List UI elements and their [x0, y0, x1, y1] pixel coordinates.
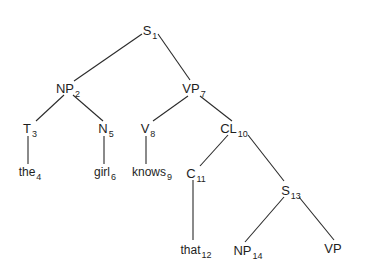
- node-label: the: [19, 165, 36, 179]
- tree-node: V8: [141, 122, 156, 135]
- tree-node: NP14: [233, 244, 262, 257]
- tree-edge: [248, 135, 284, 181]
- tree-node: CL10: [220, 122, 248, 135]
- node-label: S: [281, 183, 290, 198]
- node-index: 4: [36, 172, 41, 182]
- tree-node: VP7: [182, 82, 205, 95]
- node-index: 1: [152, 31, 157, 41]
- node-label: VP: [324, 241, 341, 256]
- node-index: 8: [150, 129, 155, 139]
- tree-leaf-word: that12: [180, 244, 211, 256]
- node-label: girl: [94, 165, 110, 179]
- node-index: 11: [197, 174, 206, 184]
- tree-node: S13: [281, 184, 301, 197]
- tree-node: T3: [23, 122, 37, 135]
- node-label: CL: [220, 121, 237, 136]
- node-label: N: [98, 121, 107, 136]
- tree-node: NP2: [56, 82, 80, 95]
- node-index: 5: [109, 129, 114, 139]
- node-label: NP: [233, 243, 251, 258]
- tree-edge: [153, 96, 188, 121]
- node-label: knows: [132, 165, 166, 179]
- tree-edge: [245, 197, 284, 242]
- node-index: 10: [238, 129, 248, 139]
- node-label: T: [23, 121, 31, 136]
- node-index: 2: [75, 89, 80, 99]
- node-index: 6: [111, 172, 116, 182]
- tree-node: C11: [186, 167, 206, 180]
- parse-tree-edges: [0, 0, 369, 269]
- node-label: S: [143, 23, 152, 38]
- node-index: 13: [291, 191, 301, 201]
- node-label: V: [141, 121, 150, 136]
- tree-node: S1: [143, 24, 158, 37]
- tree-leaf-word: knows9: [132, 166, 172, 178]
- node-index: 14: [253, 251, 263, 261]
- node-label: NP: [56, 81, 74, 96]
- tree-edge: [200, 135, 228, 166]
- tree-edge: [158, 34, 190, 80]
- tree-edge: [73, 95, 103, 121]
- tree-leaf-word: girl6: [94, 166, 116, 178]
- tree-edge: [36, 95, 64, 121]
- tree-edge: [200, 96, 232, 121]
- tree-node: N5: [98, 122, 113, 135]
- tree-leaf-word: the4: [19, 166, 42, 178]
- node-label: VP: [182, 81, 199, 96]
- node-label: C: [186, 166, 195, 181]
- node-index: 7: [201, 89, 206, 99]
- tree-edge: [74, 34, 142, 81]
- node-label: that: [180, 243, 200, 257]
- node-index: 3: [32, 129, 37, 139]
- node-index: 9: [167, 172, 172, 182]
- tree-node: VP: [324, 242, 341, 255]
- tree-edge: [299, 197, 334, 240]
- node-index: 12: [202, 250, 212, 260]
